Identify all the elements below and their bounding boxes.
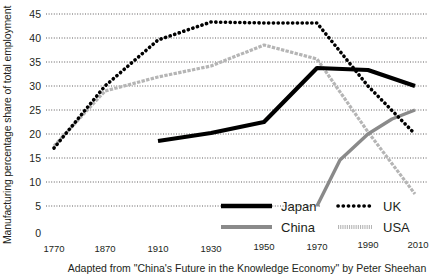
x-tick-1970: 1970 [306, 241, 327, 252]
y-tick-5: 5 [35, 200, 41, 212]
y-tick-15: 15 [29, 152, 41, 164]
y-tick-35: 35 [29, 56, 41, 68]
x-axis-ticks: 1770 1870 1910 1930 1950 1970 1990 2010 [43, 239, 428, 254]
gridlines [46, 14, 428, 206]
chart-svg: 45 40 35 30 25 20 15 10 5 0 1770 1870 19… [0, 0, 435, 278]
y-tick-30: 30 [29, 80, 41, 92]
x-tick-1910: 1910 [147, 243, 168, 254]
x-tick-1770: 1770 [43, 243, 64, 254]
x-tick-1990: 1990 [357, 239, 378, 250]
legend-label-china: China [281, 220, 316, 235]
chart-legend: Japan China UK USA [221, 199, 410, 235]
legend-label-japan: Japan [281, 199, 316, 214]
series-line-usa [54, 45, 415, 194]
y-tick-25: 25 [29, 104, 41, 116]
x-tick-1950: 1950 [253, 241, 274, 252]
y-tick-45: 45 [29, 8, 41, 20]
y-tick-0: 0 [35, 227, 41, 239]
legend-label-uk: UK [383, 199, 401, 214]
x-tick-2010: 2010 [407, 239, 428, 250]
y-axis-ticks: 45 40 35 30 25 20 15 10 5 0 [29, 8, 41, 239]
chart-caption: Adapted from "China's Future in the Know… [68, 262, 427, 274]
x-tick-1930: 1930 [200, 243, 221, 254]
legend-label-usa: USA [383, 220, 410, 235]
chart-container: Manufacturing percentage share of total … [0, 0, 435, 278]
y-tick-40: 40 [29, 32, 41, 44]
y-tick-20: 20 [29, 128, 41, 140]
x-tick-1870: 1870 [94, 243, 115, 254]
y-tick-10: 10 [29, 176, 41, 188]
